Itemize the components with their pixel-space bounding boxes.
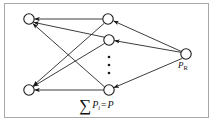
source-node-label: PR (178, 61, 188, 71)
vertical-ellipsis (108, 56, 111, 75)
edge-r1-m3 (114, 58, 183, 87)
node-left-bottom[interactable] (24, 85, 34, 95)
edge-group-middle-to-left (33, 19, 105, 90)
edge-group-right-to-middle (113, 21, 182, 88)
edge-r1-m1 (113, 21, 181, 52)
node-middle-2[interactable] (104, 35, 114, 45)
node-middle-1[interactable] (103, 14, 113, 24)
sum-caption: ∑Pi=P (79, 97, 114, 114)
caption-result: P (107, 99, 113, 110)
node-left-top[interactable] (24, 14, 34, 24)
edge-m2-l2 (33, 43, 104, 86)
ellipsis-dot-3 (108, 72, 111, 75)
caption-equals: = (101, 100, 106, 110)
node-right-source[interactable] (181, 49, 191, 59)
node-group (24, 14, 191, 95)
ellipsis-dot-1 (108, 56, 111, 59)
figure-container: PR ∑Pi=P (0, 0, 215, 124)
ellipsis-dot-2 (108, 64, 111, 67)
node-middle-3[interactable] (104, 85, 114, 95)
source-node-subscript: R (184, 64, 188, 71)
summation-icon: ∑ (79, 96, 91, 115)
edge-m3-l1 (33, 24, 105, 87)
edge-m2-l1 (34, 22, 105, 37)
caption-subscript: i (98, 104, 100, 111)
